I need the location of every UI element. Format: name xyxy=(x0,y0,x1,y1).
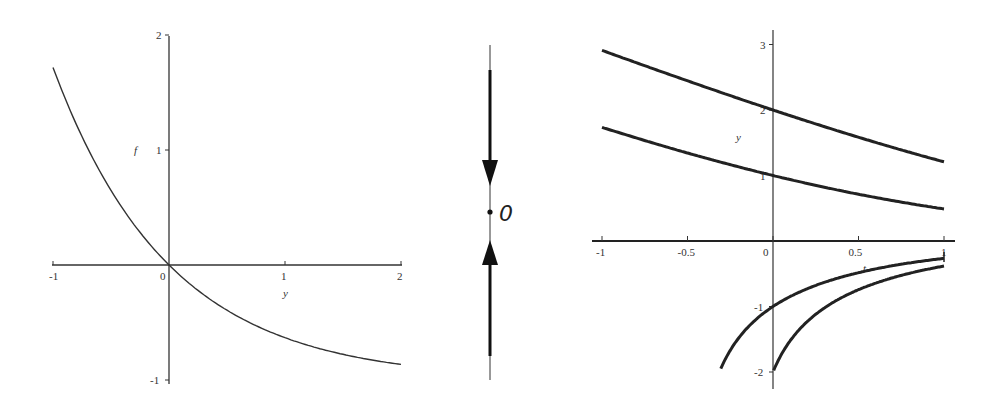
equilibrium-dot xyxy=(487,209,492,214)
solution-curve-3 xyxy=(721,258,944,368)
curve-f xyxy=(53,67,401,364)
plot-solutions: -1-0.500.51 -2-1123 t y xyxy=(592,30,955,389)
y-axis-label: f xyxy=(134,144,139,156)
y-ticks: -112 xyxy=(150,29,169,386)
x-tick-label: 1 xyxy=(281,270,287,282)
equilibrium-label: 0 xyxy=(499,201,513,226)
y-tick-label: 2 xyxy=(156,29,162,41)
x-ticks: -1012 xyxy=(49,261,403,282)
arrow-down-icon xyxy=(482,160,498,186)
x-ticks: -1-0.500.51 xyxy=(596,236,947,258)
x-tick-label: 2 xyxy=(397,270,403,282)
arrow-up-icon xyxy=(482,240,498,265)
x-tick-label: -1 xyxy=(49,270,58,282)
x-tick-label: 0.5 xyxy=(849,246,863,258)
y-tick-label: -1 xyxy=(754,301,763,313)
x-tick-label: -0.5 xyxy=(678,246,696,258)
x-tick-label: -1 xyxy=(596,246,605,258)
y-tick-label: 3 xyxy=(760,39,766,51)
y-axis-label: y xyxy=(735,131,741,143)
y-tick-label: -1 xyxy=(150,374,159,386)
x-tick-label: 0 xyxy=(763,246,769,258)
solution-curve-4 xyxy=(774,266,944,370)
x-tick-label: 0 xyxy=(160,270,166,282)
x-axis-label: y xyxy=(282,287,288,299)
plot-f-of-y: -1012 -112 y f xyxy=(49,29,403,386)
y-ticks: -2-1123 xyxy=(754,39,773,379)
figure: -1012 -112 y f 0 -1-0.500.51 -2-1123 t y xyxy=(0,0,999,417)
phase-line: 0 xyxy=(482,45,513,380)
y-tick-label: -2 xyxy=(754,366,763,378)
y-tick-label: 1 xyxy=(156,144,162,156)
